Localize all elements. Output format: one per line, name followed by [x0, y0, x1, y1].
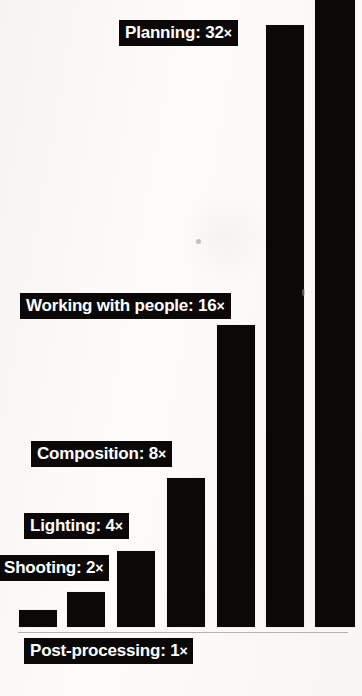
bar-shooting [67, 592, 105, 627]
bar-composition [167, 478, 205, 627]
label-shooting: Shooting: 2× [0, 555, 109, 581]
label-planning: Planning: 32× [119, 20, 238, 46]
label-shooting-text: Shooting: 2 [4, 558, 95, 577]
label-lighting: Lighting: 4× [24, 513, 129, 539]
label-composition-text: Composition: 8 [37, 444, 158, 463]
label-working-with-people-multiplier: × [217, 298, 225, 314]
label-planning-multiplier: × [224, 25, 232, 41]
bar-unlabeled-top [315, 0, 355, 627]
label-post-processing-text: Post-processing: 1 [30, 641, 179, 660]
label-working-with-people-text: Working with people: 16 [26, 296, 217, 315]
label-post-processing: Post-processing: 1× [24, 638, 193, 664]
label-working-with-people: Working with people: 16× [20, 293, 231, 319]
label-composition: Composition: 8× [31, 441, 172, 467]
bar-chart-figure: Planning: 32× Working with people: 16× C… [0, 0, 362, 696]
bar-working-with-people [217, 325, 255, 627]
label-planning-text: Planning: 32 [125, 23, 224, 42]
bar-post-processing [19, 610, 57, 627]
bar-planning [266, 25, 304, 627]
label-post-processing-multiplier: × [179, 643, 187, 659]
plot-area: Planning: 32× Working with people: 16× C… [0, 0, 362, 696]
baseline-rule [18, 632, 348, 633]
bar-lighting [117, 551, 155, 627]
label-lighting-text: Lighting: 4 [30, 516, 115, 535]
label-shooting-multiplier: × [95, 560, 103, 576]
label-composition-multiplier: × [158, 446, 166, 462]
scan-speck [196, 239, 201, 244]
label-lighting-multiplier: × [115, 518, 123, 534]
